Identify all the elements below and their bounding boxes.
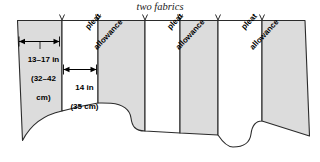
notch-mark-icon [216, 15, 221, 21]
panel-width-inches: 13–17 in [28, 55, 60, 64]
pleat-allowance-line1: pleat [239, 12, 258, 32]
notch-mark-icon [143, 15, 148, 21]
pleat-width-label: 14 in (35 cm) [52, 73, 108, 121]
pleat-allowance-line1: pleat [165, 12, 184, 32]
pleat-width-cm: (35 cm) [70, 102, 98, 111]
panel-width-cm-line2: cm) [36, 93, 50, 102]
notch-mark-icon [60, 15, 65, 21]
pleat-width-inches: 14 in [75, 83, 93, 92]
pattern-diagram: two fabrics [0, 0, 320, 162]
pleat-allowance-line1: pleat [83, 12, 102, 32]
